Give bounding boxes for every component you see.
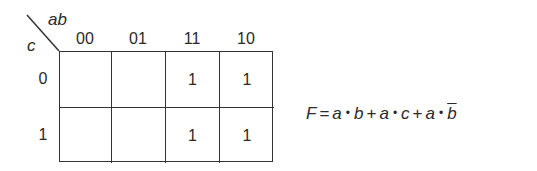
or-plus: + (413, 104, 423, 123)
kmap-cell-c1-ab10: 1 (220, 108, 274, 163)
kmap-cell-c1-ab00 (60, 108, 112, 163)
kmap-cell-c0-ab00 (60, 52, 112, 108)
kmap-cell-c1-ab01 (112, 108, 166, 163)
kmap-cell-c1-ab11: 1 (166, 108, 220, 163)
and-dot: • (439, 106, 443, 120)
kmap-cell-c0-ab10: 1 (220, 52, 274, 108)
kmap-cell-c0-ab11: 1 (166, 52, 220, 108)
row-variable-label: c (27, 37, 36, 54)
and-dot: • (346, 106, 350, 120)
row-header-1: 1 (33, 127, 53, 143)
term3-var1: a (426, 104, 435, 123)
kmap-cell-c0-ab01 (112, 52, 166, 108)
term2-var1: a (379, 104, 388, 123)
or-plus: + (366, 104, 376, 123)
and-dot: • (393, 106, 397, 120)
column-header-00: 00 (58, 31, 112, 47)
formula-lhs: F (306, 104, 316, 123)
term1-var2: b (354, 104, 363, 123)
column-header-10: 10 (219, 31, 273, 47)
formula-equals: = (319, 104, 329, 123)
karnaugh-map-grid: 1 1 1 1 (59, 51, 273, 162)
term1-var1: a (332, 104, 341, 123)
boolean-formula: F=a•b+a•c+a•b (306, 103, 457, 124)
term3-var2-complement: b (447, 104, 456, 123)
column-header-01: 01 (111, 31, 165, 47)
column-variable-label: ab (48, 11, 67, 28)
term2-var2: c (401, 104, 410, 123)
column-header-11: 11 (165, 31, 219, 47)
row-header-0: 0 (33, 71, 53, 87)
